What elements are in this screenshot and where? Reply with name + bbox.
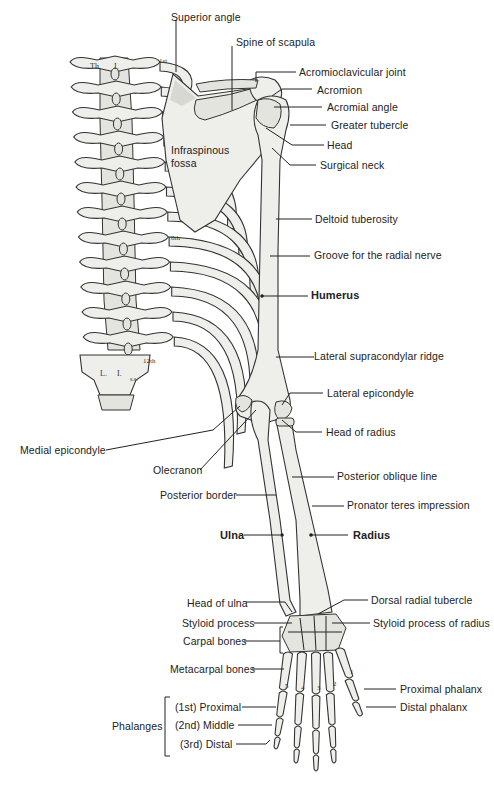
spinous-process xyxy=(118,218,126,230)
spinous-process xyxy=(113,118,121,130)
phalanx xyxy=(274,737,280,749)
label-spine-of-scapula: Spine of scapula xyxy=(236,36,315,48)
label-head: Head xyxy=(327,139,353,151)
label-acromial-angle: Acromial angle xyxy=(327,101,398,113)
spinous-process xyxy=(115,143,123,155)
label-medial-epicondyle: Medial epicondyle xyxy=(20,444,106,456)
label-lateral-epicondyle: Lateral epicondyle xyxy=(327,387,414,399)
lumbar-right-mark: I. xyxy=(117,369,122,378)
label-pronator-teres-impression: Pronator teres impression xyxy=(347,499,470,511)
finger-number-4: 4 xyxy=(301,684,305,692)
phalanx xyxy=(326,693,335,725)
finger-number-2: 2 xyxy=(333,680,337,688)
anatomy-diagram: Th. I. L. I. s.s. 1st 8th 12th 5 4 3 2 1… xyxy=(0,0,494,805)
label-ulna: Ulna xyxy=(220,529,244,541)
phalanx xyxy=(295,693,304,725)
spinous-process xyxy=(116,168,124,180)
finger-number-5: 5 xyxy=(285,682,289,690)
spinous-process xyxy=(123,318,131,330)
rib xyxy=(174,337,233,468)
phalanx xyxy=(352,702,362,716)
spinous-process xyxy=(117,193,125,205)
phalanx xyxy=(313,755,318,771)
finger-number-1: 1 xyxy=(350,668,354,676)
label-lateral-supracondylar-ridge: Lateral supracondylar ridge xyxy=(314,350,444,362)
phalanx xyxy=(331,749,336,763)
label-phalanges: Phalanges xyxy=(112,720,163,732)
label-proximal-phalanx: Proximal phalanx xyxy=(400,683,482,695)
label-superior-angle: Superior angle xyxy=(171,11,241,23)
label-distal-phalanx: Distal phalanx xyxy=(400,701,467,713)
label-greater-tubercle: Greater tubercle xyxy=(331,119,408,131)
label-humerus: Humerus xyxy=(311,289,359,301)
spinous-process xyxy=(122,293,130,305)
phalanx xyxy=(312,695,320,729)
spinous-process xyxy=(124,343,132,355)
label-acromioclavicular-joint: Acromioclavicular joint xyxy=(299,66,406,78)
label-acromion: Acromion xyxy=(317,84,362,96)
label-posterior-oblique-line: Posterior oblique line xyxy=(337,470,437,482)
label-metacarpal-bones: Metacarpal bones xyxy=(170,663,255,675)
lumbar-left-mark: L. xyxy=(100,369,107,378)
label-olecranon: Olecranon xyxy=(153,464,202,476)
phalanx xyxy=(275,718,283,736)
rib-8-label: 8th xyxy=(171,234,180,242)
phalanx xyxy=(345,679,359,701)
phalanx xyxy=(313,730,320,754)
rib-12-label: 12th xyxy=(143,357,155,365)
label-posterior-border: Posterior border xyxy=(160,489,237,501)
label-surgical-neck: Surgical neck xyxy=(320,159,384,171)
thoracic-right-mark: I. xyxy=(114,62,119,71)
rib-1-label: 1st xyxy=(159,57,167,65)
label-head-of-ulna: Head of ulna xyxy=(187,597,248,609)
label-styloid-process: Styloid process xyxy=(182,617,255,629)
rib xyxy=(173,312,246,434)
label-radius: Radius xyxy=(353,529,390,541)
spinous-process xyxy=(121,268,129,280)
label-carpal-bones: Carpal bones xyxy=(183,635,247,647)
label-groove-radial-nerve: Groove for the radial nerve xyxy=(314,249,442,261)
label-infraspinous-fossa-1: Infraspinous xyxy=(171,144,229,156)
phalanx xyxy=(294,726,301,748)
label-deltoid-tuberosity: Deltoid tuberosity xyxy=(315,213,398,225)
label-first-proximal: (1st) Proximal xyxy=(175,701,241,713)
phalanx xyxy=(277,691,287,717)
label-head-of-radius: Head of radius xyxy=(326,426,396,438)
label-third-distal: (3rd) Distal xyxy=(180,738,233,750)
spinous-process xyxy=(119,243,127,255)
label-infraspinous-fossa-2: fossa xyxy=(171,157,197,169)
phalanx xyxy=(294,749,299,763)
thoracic-left-mark: Th. xyxy=(90,62,101,71)
sacral-mark: s.s. xyxy=(130,376,138,382)
phalanx xyxy=(329,726,336,748)
label-second-middle: (2nd) Middle xyxy=(175,719,235,731)
label-styloid-process-of-radius: Styloid process of radius xyxy=(373,617,490,629)
hand-bones xyxy=(274,614,362,771)
forearm-bones xyxy=(251,401,332,616)
label-dorsal-radial-tubercle: Dorsal radial tubercle xyxy=(371,594,472,606)
finger-number-3: 3 xyxy=(317,684,321,692)
vertebral-column xyxy=(70,56,173,410)
spinous-process xyxy=(112,93,120,105)
